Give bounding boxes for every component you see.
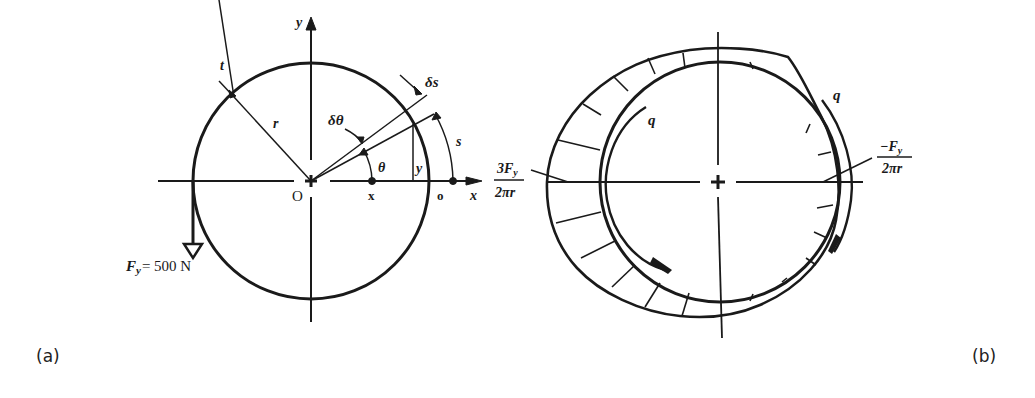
caption-a: (a) xyxy=(36,346,60,366)
force-subscript: y xyxy=(134,264,141,276)
figure-b-labels: q q 3Fy 2πr −Fy 2πr (b) xyxy=(494,87,996,366)
max-value-denominator: 2πr xyxy=(494,185,516,200)
x-axis-arrowhead xyxy=(466,177,482,185)
min-value-numerator: −Fy xyxy=(880,139,903,156)
height-label: y xyxy=(414,161,423,176)
point-x-marker xyxy=(369,178,376,185)
s-arrow xyxy=(432,112,441,120)
origin-label: O xyxy=(292,188,303,204)
max-numerator-text: 3F xyxy=(496,161,514,176)
min-numerator-sub: y xyxy=(897,145,903,156)
force-symbol: F xyxy=(125,258,136,274)
thickness-label: t xyxy=(220,58,225,73)
max-numerator-sub: y xyxy=(512,167,518,178)
arc-length-label: s xyxy=(455,134,462,149)
caption-b: (b) xyxy=(972,346,996,366)
shear-flow-label-right: q xyxy=(833,87,841,103)
min-numerator-text: −F xyxy=(880,139,898,154)
radius-line xyxy=(234,97,311,181)
figure-a-labels: y x O x o t r s δs δθ θ y Fy= 500 N (a) xyxy=(36,15,477,366)
point-x-label: x xyxy=(368,188,375,203)
theta-label: θ xyxy=(378,160,386,175)
shear-flow-label-left: q xyxy=(648,112,656,128)
point-o-label: o xyxy=(437,188,444,203)
figure-a xyxy=(158,0,482,322)
element-ray-upper xyxy=(311,95,427,181)
force-arrowhead xyxy=(184,244,202,258)
max-value-numerator: 3Fy xyxy=(496,161,518,178)
radius-label: r xyxy=(273,116,279,131)
min-value-denominator: 2πr xyxy=(881,161,903,176)
y-axis-label: y xyxy=(294,15,303,30)
figure-b xyxy=(531,32,872,338)
force-value: = 500 N xyxy=(142,258,191,274)
arc-length-s xyxy=(435,114,453,181)
max-value-leader xyxy=(531,170,568,182)
delta-s-arrow xyxy=(414,86,422,95)
point-o-marker xyxy=(450,178,457,185)
diagram-canvas: y x O x o t r s δs δθ θ y Fy= 500 N (a) xyxy=(0,0,1035,398)
shear-flow-arrow-left xyxy=(606,107,665,270)
force-label: Fy= 500 N xyxy=(125,258,191,276)
delta-theta-label: δθ xyxy=(328,112,344,128)
y-axis-arrowhead xyxy=(306,17,316,30)
x-axis-label: x xyxy=(469,188,477,203)
delta-s-label: δs xyxy=(425,74,439,90)
min-value-leader xyxy=(823,158,872,182)
